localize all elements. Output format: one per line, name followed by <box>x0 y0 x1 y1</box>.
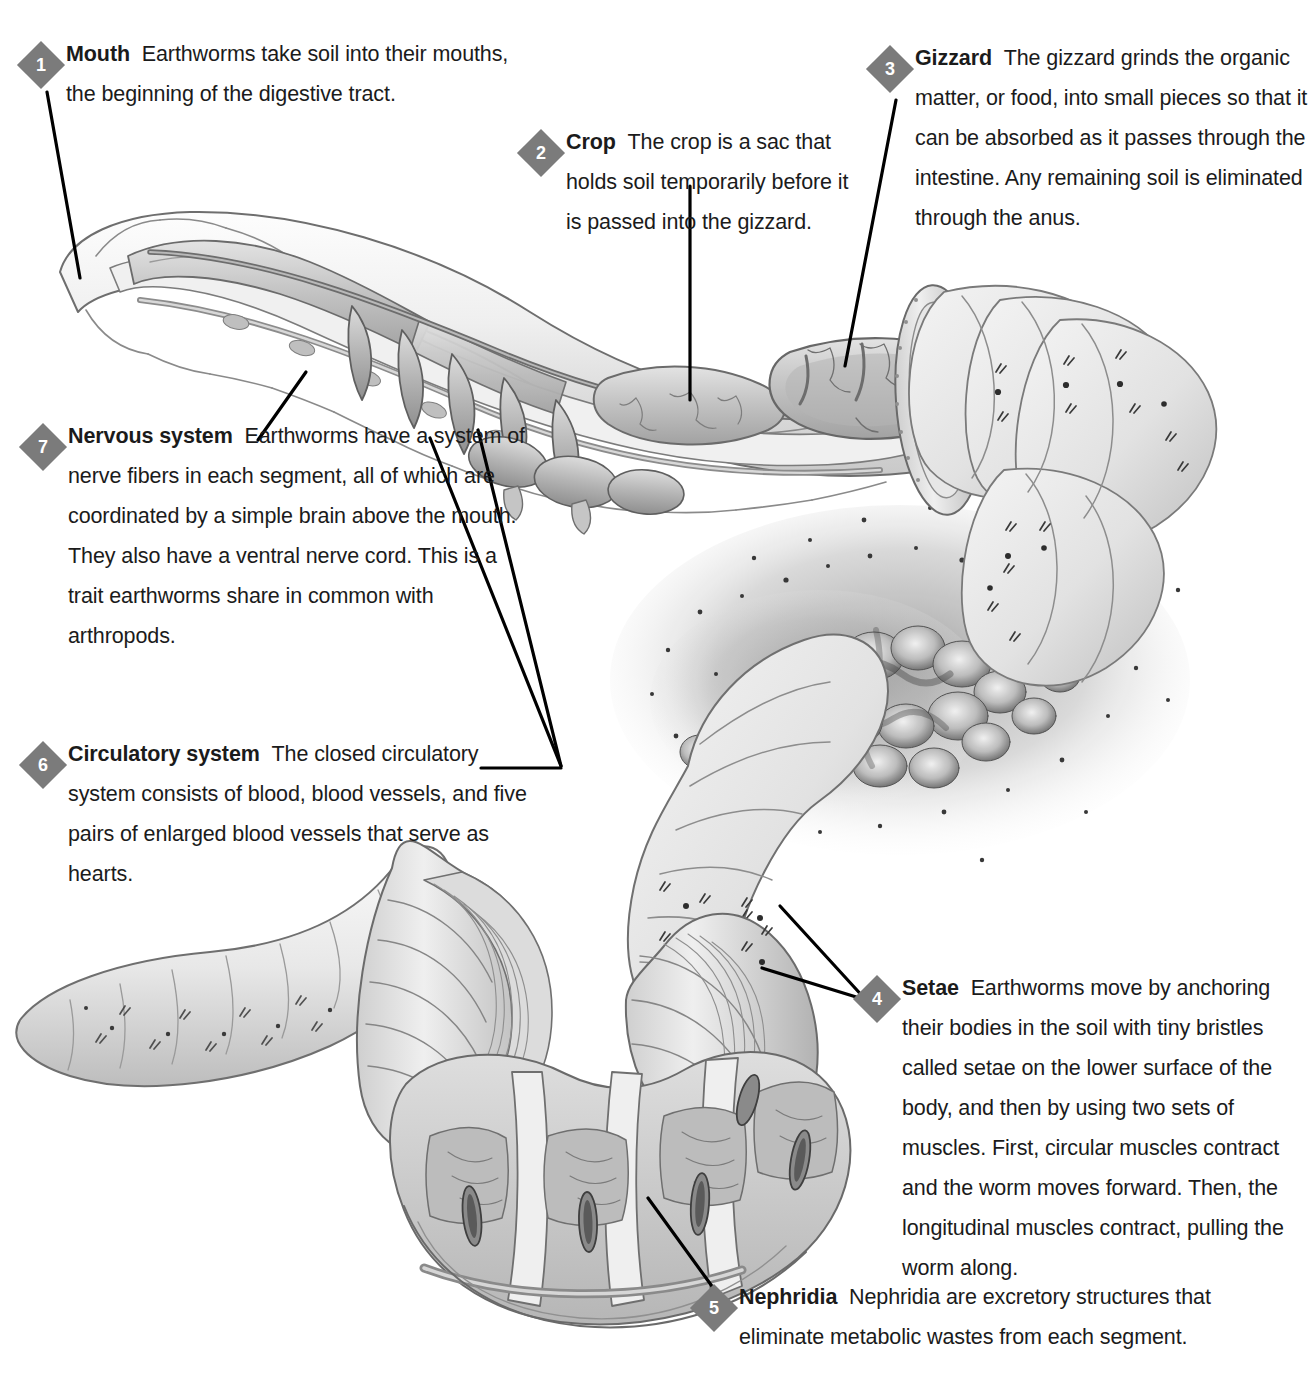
callout-description: Earthworms have a system of nerve fibers… <box>68 424 525 648</box>
callout-term: Crop <box>566 130 628 154</box>
leader-line-mouth <box>47 92 80 278</box>
callout-number: 6 <box>38 756 48 774</box>
callout-text-circulatory-system: Circulatory systemThe closed circulatory… <box>68 734 538 894</box>
callout-text-gizzard: GizzardThe gizzard grinds the organic ma… <box>915 38 1312 238</box>
callout-text-nephridia: NephridiaNephridia are excretory structu… <box>739 1277 1299 1357</box>
callout-term: Nervous system <box>68 424 244 448</box>
callout-text-nervous-system: Nervous systemEarthworms have a system o… <box>68 416 528 656</box>
callout-number: 1 <box>36 56 46 74</box>
callout-term: Setae <box>902 976 971 1000</box>
callout-term: Mouth <box>66 42 142 66</box>
callout-term: Nephridia <box>739 1285 849 1309</box>
callout-number: 2 <box>536 144 546 162</box>
callout-text-crop: CropThe crop is a sac that holds soil te… <box>566 122 866 242</box>
callout-number: 7 <box>38 438 48 456</box>
callout-description: The gizzard grinds the organic matter, o… <box>915 46 1307 230</box>
callout-text-mouth: MouthEarthworms take soil into their mou… <box>66 34 516 114</box>
callout-description: Earthworms move by anchoring their bodie… <box>902 976 1284 1280</box>
callout-term: Circulatory system <box>68 742 272 766</box>
callout-text-setae: SetaeEarthworms move by anchoring their … <box>902 968 1292 1288</box>
callout-term: Gizzard <box>915 46 1004 70</box>
callout-number: 5 <box>709 1299 719 1317</box>
callout-number: 3 <box>885 60 895 78</box>
callout-number: 4 <box>872 990 882 1008</box>
